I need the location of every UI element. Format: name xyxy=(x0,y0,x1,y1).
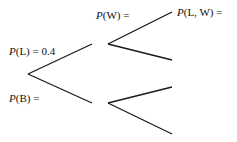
branch-b-to-lower xyxy=(108,103,172,134)
label-p-lw: P(L, W) = xyxy=(177,6,222,18)
label-p-l: P(L) = 0.4 xyxy=(9,45,55,57)
label-p-b: P(B) = xyxy=(9,92,39,104)
label-p-w: P(W) = xyxy=(96,9,129,21)
branch-b-to-upper xyxy=(108,87,172,103)
branch-l-to-other xyxy=(108,44,172,60)
tree-lines xyxy=(0,0,237,142)
